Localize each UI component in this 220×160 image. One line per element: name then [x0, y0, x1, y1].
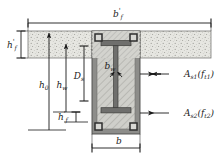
- rebar-top-left: [95, 34, 102, 41]
- rebar-bottom-right: [130, 123, 137, 130]
- cross-section-svg: b'f h'f h0 hw Ds: [0, 0, 220, 160]
- rebar-top-right: [130, 34, 137, 41]
- diagram-canvas: b'f h'f h0 hw Ds: [0, 0, 220, 160]
- rebar-bottom-left: [95, 123, 102, 130]
- label-beam-width: b: [96, 136, 136, 146]
